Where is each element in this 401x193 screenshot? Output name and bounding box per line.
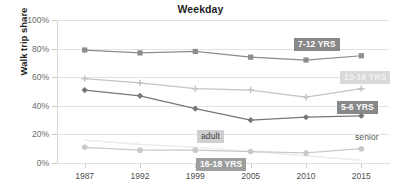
data-point — [137, 147, 143, 153]
chart-container: Weekday Walk trip share 0%20%40%60%80%10… — [0, 0, 401, 193]
data-point — [137, 93, 143, 99]
data-point — [192, 85, 198, 91]
data-point — [358, 85, 364, 91]
data-point — [82, 87, 88, 93]
series-16-18-yrs — [82, 144, 364, 155]
series-label: senior — [351, 131, 383, 144]
series-line — [85, 50, 362, 60]
data-point — [248, 117, 254, 123]
data-point — [303, 114, 309, 120]
data-point — [193, 49, 198, 54]
data-point — [137, 50, 142, 55]
data-point — [359, 53, 364, 58]
data-point — [248, 149, 254, 155]
data-point — [248, 55, 253, 60]
data-point — [303, 150, 309, 156]
series-label: 5-6 YRS — [337, 101, 378, 114]
series-label: 13-16 YRS — [340, 71, 390, 84]
data-point — [82, 144, 88, 150]
series-line — [85, 147, 362, 153]
data-point — [82, 47, 87, 52]
data-point — [137, 80, 143, 86]
data-point — [359, 146, 365, 152]
data-point — [303, 57, 308, 62]
series-13-16-yrs — [81, 75, 364, 100]
series-label: adult — [197, 130, 224, 143]
series-5-6-yrs — [82, 87, 365, 123]
series-label: 16-18 YRS — [196, 158, 246, 171]
data-point — [192, 106, 198, 112]
data-point — [193, 147, 199, 153]
data-point — [81, 75, 87, 81]
data-point — [303, 94, 309, 100]
data-point — [247, 87, 253, 93]
series-label: 7-12 YRS — [294, 38, 340, 51]
